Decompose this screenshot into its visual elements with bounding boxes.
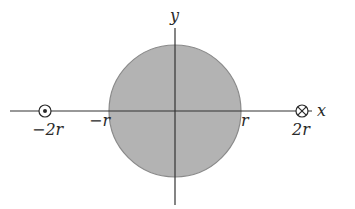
diagram: x y −2r −r r 2r [0, 0, 355, 209]
label-neg-2r: −2r [32, 120, 65, 139]
x-axis-label: x [317, 101, 326, 120]
y-axis-label: y [169, 6, 180, 25]
label-pos-r: r [241, 111, 250, 130]
label-neg-r: −r [89, 111, 111, 130]
label-pos-2r: 2r [291, 120, 311, 139]
wire-out-of-page-icon [39, 105, 51, 117]
wire-into-page-icon [296, 105, 308, 117]
